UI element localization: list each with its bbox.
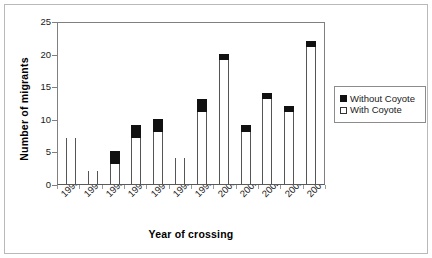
bar-slot — [147, 23, 169, 184]
bar-1999[interactable] — [197, 99, 207, 184]
x-tick-mark — [146, 185, 147, 189]
bar-slot — [300, 23, 322, 184]
legend-label-with-coyote: With Coyote — [350, 105, 402, 115]
y-tick-label: 10 — [17, 115, 51, 125]
y-tick-label: 5 — [17, 147, 51, 157]
bar-segment-with-coyote — [110, 164, 120, 184]
legend-item-with-coyote: With Coyote — [340, 105, 421, 115]
bar-segment-with-coyote — [153, 132, 163, 184]
x-tick-mark — [191, 185, 192, 189]
bar-segment-with-coyote — [88, 171, 98, 184]
bar-slot — [82, 23, 104, 184]
bar-2000[interactable] — [219, 54, 229, 184]
bar-segment-with-coyote — [219, 60, 229, 184]
bar-slot — [60, 23, 82, 184]
bar-slot — [213, 23, 235, 184]
legend-swatch-without-coyote — [340, 95, 347, 102]
bar-segment-without-coyote — [110, 151, 120, 164]
bar-segment-with-coyote — [241, 132, 251, 184]
x-tick-mark — [213, 185, 214, 189]
bar-slot — [256, 23, 278, 184]
x-tick-mark — [169, 185, 170, 189]
bar-segment-without-coyote — [131, 125, 141, 138]
bar-slot — [278, 23, 300, 184]
bar-group — [58, 23, 324, 184]
bar-slot — [235, 23, 257, 184]
y-tick-label: 15 — [17, 82, 51, 92]
bar-1994[interactable] — [88, 171, 98, 184]
y-tick-label: 25 — [17, 17, 51, 27]
x-tick-mark — [280, 185, 281, 189]
bar-segment-with-coyote — [175, 158, 185, 184]
bar-1998[interactable] — [175, 158, 185, 184]
legend-item-without-coyote: Without Coyote — [340, 94, 421, 104]
bar-2003[interactable] — [284, 106, 294, 184]
x-axis-title: Year of crossing — [57, 228, 325, 240]
bar-2002[interactable] — [262, 93, 272, 184]
bar-1996[interactable] — [131, 125, 141, 184]
bar-segment-without-coyote — [197, 99, 207, 112]
bar-slot — [104, 23, 126, 184]
bar-1995[interactable] — [110, 151, 120, 184]
bar-segment-with-coyote — [262, 99, 272, 184]
legend-swatch-with-coyote — [340, 107, 347, 114]
bar-segment-without-coyote — [153, 119, 163, 132]
bar-1993[interactable] — [66, 138, 76, 184]
x-tick-mark — [325, 185, 326, 189]
bar-slot — [125, 23, 147, 184]
x-tick-mark — [258, 185, 259, 189]
x-tick-mark — [79, 185, 80, 189]
figure: Number of migrants 0510152025 1993199419… — [0, 0, 432, 258]
bar-2001[interactable] — [241, 125, 251, 184]
bar-1997[interactable] — [153, 119, 163, 184]
bar-segment-with-coyote — [284, 112, 294, 184]
x-tick-mark — [102, 185, 103, 189]
bar-segment-with-coyote — [131, 138, 141, 184]
bar-segment-with-coyote — [197, 112, 207, 184]
y-tick-label: 20 — [17, 50, 51, 60]
bar-segment-with-coyote — [306, 47, 316, 184]
legend-label-without-coyote: Without Coyote — [350, 94, 415, 104]
bar-2004[interactable] — [306, 41, 316, 184]
bar-slot — [191, 23, 213, 184]
x-tick-mark — [236, 185, 237, 189]
x-tick-mark — [124, 185, 125, 189]
y-axis-title: Number of migrants — [18, 39, 30, 179]
y-tick-label: 0 — [17, 180, 51, 190]
bar-slot — [169, 23, 191, 184]
bar-segment-with-coyote — [66, 138, 76, 184]
x-tick-mark — [303, 185, 304, 189]
x-tick-mark — [57, 185, 58, 189]
legend: Without Coyote With Coyote — [334, 86, 426, 123]
plot-area — [57, 22, 325, 185]
